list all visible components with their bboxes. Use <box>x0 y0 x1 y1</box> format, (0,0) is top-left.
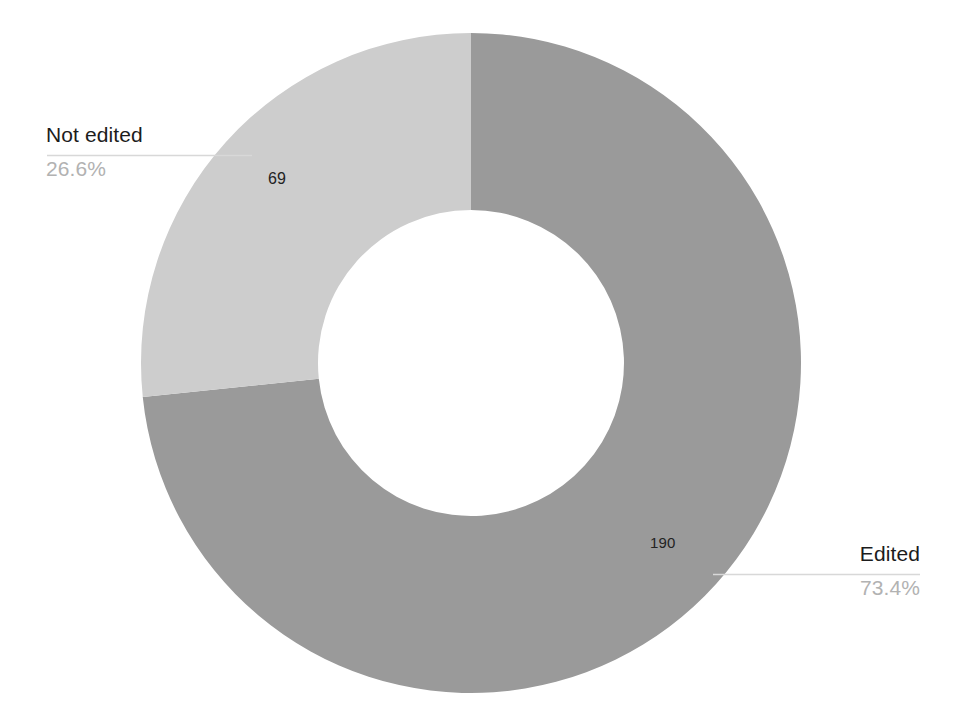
donut-chart-svg <box>0 0 953 719</box>
callout-percent-edited: 73.4% <box>683 577 920 598</box>
slice-value-edited: 190 <box>650 534 676 551</box>
donut-chart-figure: Not edited 26.6% Edited 73.4% 69 190 <box>0 0 953 719</box>
callout-edited[interactable]: Edited 73.4% <box>683 543 920 598</box>
callout-percent-not-edited: 26.6% <box>46 158 143 179</box>
callout-label-edited: Edited <box>683 543 920 564</box>
donut-slice-not-edited[interactable] <box>141 33 471 397</box>
callout-label-not-edited: Not edited <box>46 124 143 145</box>
callout-not-edited[interactable]: Not edited 26.6% <box>46 124 143 179</box>
slice-value-not-edited: 69 <box>268 170 286 188</box>
